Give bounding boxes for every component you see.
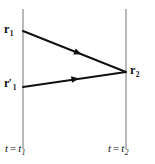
label-r1-prime-mark: ′ (9, 76, 12, 88)
label-t1-value-subscript: 1 (22, 148, 26, 157)
label-r2: r2 (130, 64, 139, 76)
label-t1-value-base: t (18, 142, 21, 154)
label-t1-equals: = (8, 142, 18, 154)
label-r2-base: r (130, 63, 135, 77)
label-t-equals-t1: t=t1 (5, 143, 25, 154)
label-r1-prime: r′1 (4, 77, 16, 89)
label-t2-value-subscript: 2 (125, 148, 129, 157)
label-t-equals-t2: t=t2 (108, 143, 128, 154)
diagram-canvas (0, 0, 155, 164)
spacetime-diagram-figure: r1 r′1 r2 t=t1 t=t2 (0, 0, 155, 164)
label-r1-prime-subscript: 1 (13, 83, 17, 92)
label-r2-subscript: 2 (136, 70, 140, 79)
label-r1-subscript: 1 (10, 29, 14, 38)
upper-propagator-arrowhead (73, 48, 83, 57)
label-r1: r1 (4, 23, 13, 35)
label-t2-equals: = (111, 142, 121, 154)
label-r1-base: r (4, 22, 9, 36)
label-t2-value-base: t (121, 142, 124, 154)
